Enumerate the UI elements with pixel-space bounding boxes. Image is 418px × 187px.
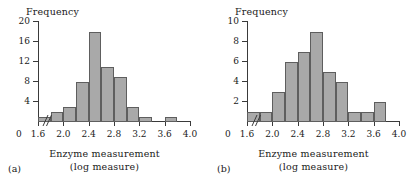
y-tick-b-3: 8 (242, 41, 248, 42)
x-tick-a-6 (190, 121, 191, 126)
histogram-bar (165, 117, 178, 122)
y-tick-label-a-3: 16 (19, 35, 30, 47)
plot-area-b: 246810 1.62.02.42.83.23.64.0 0 (247, 22, 399, 122)
x-tick-label-a-6: 4.0 (183, 129, 197, 140)
panel-tag-a: (a) (8, 163, 21, 175)
x-tick-label-b-5: 3.6 (366, 129, 380, 140)
y-tick-b-4: 10 (242, 21, 248, 22)
x-axis-title-a: Enzyme measurement (log measure) (0, 148, 209, 173)
x-tick-label-b-3: 2.8 (316, 129, 330, 140)
x-axis-title-line2-a: (log measure) (0, 161, 209, 174)
y-tick-b-2: 6 (242, 61, 248, 62)
x-tick-label-b-4: 3.2 (341, 129, 355, 140)
y-tick-a-3: 16 (33, 41, 39, 42)
y-tick-b-1: 4 (242, 81, 248, 82)
x-tick-label-b-1: 2.0 (265, 129, 279, 140)
y-tick-label-b-2: 6 (233, 55, 239, 67)
histogram-figure: Frequency 48121620 1.62.02.42.83.23.64.0… (0, 0, 418, 187)
histogram-bar (101, 67, 114, 122)
x-axis-title-line1-a: Enzyme measurement (0, 148, 209, 161)
histogram-bar (89, 32, 102, 122)
histogram-bar (285, 62, 298, 122)
y-tick-label-b-0: 2 (233, 95, 239, 107)
x-tick-label-b-0: 1.6 (240, 129, 254, 140)
x-origin-label-b: 0 (225, 129, 231, 140)
histogram-bar (361, 112, 374, 122)
x-tick-label-a-2: 2.4 (81, 129, 95, 140)
y-axis-title-b: Frequency (235, 6, 288, 17)
axis-break-icon-a (41, 114, 54, 127)
y-tick-label-b-1: 4 (233, 75, 239, 87)
y-tick-a-2: 12 (33, 61, 39, 62)
x-tick-label-a-5: 3.6 (157, 129, 171, 140)
histogram-bar (127, 107, 140, 122)
histogram-bar (298, 52, 311, 122)
x-tick-label-b-2: 2.4 (290, 129, 304, 140)
histogram-bar (114, 77, 127, 122)
histogram-bar (348, 112, 361, 122)
x-tick-label-a-3: 2.8 (107, 129, 121, 140)
histogram-bar (76, 82, 89, 122)
y-tick-label-a-2: 12 (19, 55, 30, 67)
histogram-bar (63, 107, 76, 122)
axis-break-icon-b (250, 114, 263, 127)
plot-area-a: 48121620 1.62.02.42.83.23.64.0 0 (38, 22, 190, 122)
y-tick-a-4: 20 (33, 21, 39, 22)
x-axis-title-line1-b: Enzyme measurement (209, 148, 418, 161)
histogram-bar (139, 117, 152, 122)
y-tick-label-a-4: 20 (19, 15, 30, 27)
panel-a: Frequency 48121620 1.62.02.42.83.23.64.0… (0, 0, 209, 187)
x-tick-label-a-4: 3.2 (132, 129, 146, 140)
histogram-bar (272, 92, 285, 122)
x-axis-title-line2-b: (log measure) (209, 161, 418, 174)
histogram-bar (310, 32, 323, 122)
y-tick-label-b-3: 8 (233, 35, 239, 47)
y-tick-label-a-0: 4 (24, 95, 30, 107)
y-axis-line-a (38, 22, 39, 122)
x-tick-label-a-0: 1.6 (31, 129, 45, 140)
histogram-bar (336, 82, 349, 122)
y-axis-title-a: Frequency (26, 6, 79, 17)
x-tick-label-b-6: 4.0 (392, 129, 406, 140)
panel-b: Frequency 246810 1.62.02.42.83.23.64.0 0… (209, 0, 418, 187)
x-axis-title-b: Enzyme measurement (log measure) (209, 148, 418, 173)
x-tick-label-a-1: 2.0 (56, 129, 70, 140)
y-tick-a-1: 8 (33, 81, 39, 82)
panel-tag-b: (b) (217, 163, 231, 175)
x-origin-label-a: 0 (16, 129, 22, 140)
histogram-bar (374, 102, 387, 122)
y-axis-line-b (247, 22, 248, 122)
y-tick-b-0: 2 (242, 101, 248, 102)
x-tick-b-6 (399, 121, 400, 126)
y-tick-a-0: 4 (33, 101, 39, 102)
histogram-bar (323, 72, 336, 122)
y-tick-label-a-1: 8 (24, 75, 30, 87)
y-tick-label-b-4: 10 (228, 15, 239, 27)
